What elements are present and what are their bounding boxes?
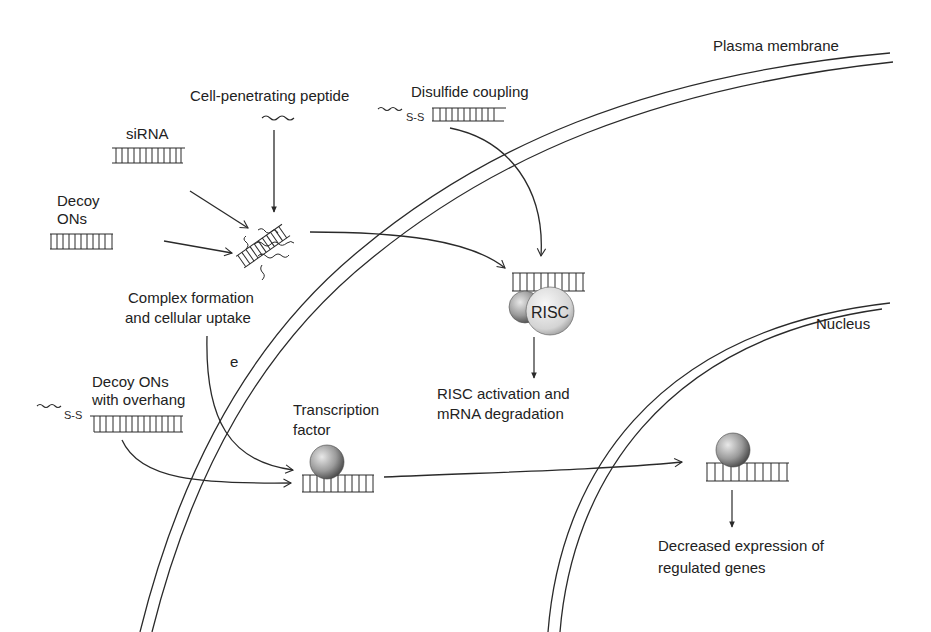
- complex-peptides-icon: [244, 229, 294, 280]
- endosome-marker-label: e: [230, 352, 238, 371]
- nuclear-tf-sphere-icon: [716, 433, 750, 467]
- disulfide-duplex-icon: [432, 108, 506, 121]
- decoy-overhang-label-1: Decoy ONs: [92, 372, 169, 391]
- nuclear-duplex-icon: [706, 463, 789, 481]
- tf-duplex-icon: [302, 475, 374, 492]
- diagram-canvas: S-S RISC S-S: [0, 0, 931, 632]
- risc-label: RISC: [531, 304, 569, 321]
- sirna-duplex-icon: [112, 148, 185, 163]
- sirna-label: siRNA: [126, 124, 169, 143]
- transcription-factor-label-1: Transcription: [293, 400, 379, 419]
- transcription-factor-sphere-icon: [310, 445, 344, 479]
- disulfide-bond-label: S-S: [406, 111, 424, 123]
- arrow-disulfide-to-risc: [450, 128, 541, 256]
- decoy-overhang-label-2: with overhang: [92, 390, 185, 409]
- cell-penetrating-peptide-label: Cell-penetrating peptide: [190, 86, 349, 105]
- complex-formation-label-2: and cellular uptake: [125, 308, 251, 327]
- disulfide-peptide-wavy-icon: [378, 108, 402, 111]
- decoy-ons-duplex-icon: [50, 234, 113, 249]
- decoy-ons-label-1: Decoy: [57, 191, 100, 210]
- arrow-decoy-to-complex: [164, 241, 232, 253]
- complex-icon: [236, 224, 290, 268]
- arrow-complex-to-risc: [310, 232, 505, 268]
- arrow-complex-to-tf: [207, 336, 293, 470]
- risc-activation-label-1: RISC activation and: [437, 384, 570, 403]
- peptide-wavy-icon: [262, 116, 294, 120]
- transcription-factor-label-2: factor: [293, 420, 331, 439]
- complex-formation-label-1: Complex formation: [128, 288, 254, 307]
- disulfide-coupling-label: Disulfide coupling: [411, 82, 529, 101]
- overhang-disulfide-label: S-S: [64, 409, 82, 421]
- nucleus-label: Nucleus: [816, 314, 870, 333]
- plasma-membrane-label: Plasma membrane: [713, 36, 839, 55]
- overhang-duplex-icon: [90, 416, 183, 432]
- risc-activation-label-2: mRNA degradation: [437, 404, 564, 423]
- overhang-peptide-wavy-icon: [37, 405, 61, 408]
- arrow-sirna-to-complex: [190, 191, 248, 228]
- arrow-tf-to-nucleus: [384, 462, 682, 477]
- decoy-ons-label-2: ONs: [57, 209, 87, 228]
- decreased-expression-label-2: regulated genes: [658, 558, 766, 577]
- decreased-expression-label-1: Decreased expression of: [658, 536, 824, 555]
